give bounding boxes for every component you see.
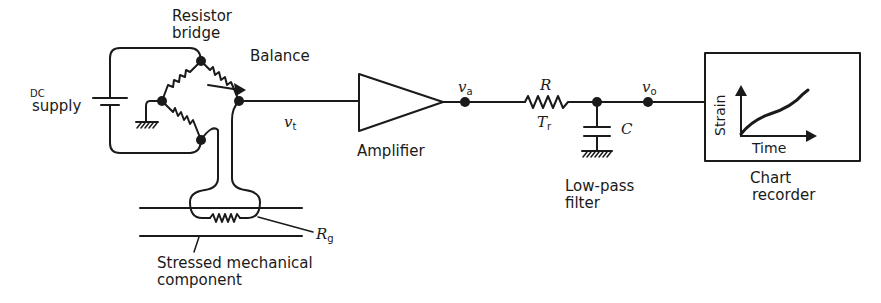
chart-recorder-label-line2: recorder: [752, 187, 815, 203]
chart-recorder-label-line1: Chart: [750, 170, 791, 186]
strain-gauge: [140, 178, 313, 252]
resistor-bridge-label-line1: Resistor: [172, 8, 232, 24]
chart-x-axis-label: Time: [752, 140, 786, 156]
bridge-output-voltage-label: vt: [284, 114, 296, 135]
time-constant-label: Tr: [537, 114, 551, 135]
amplifier-symbol: [359, 74, 525, 131]
mechanical-component-label-line2: component: [157, 272, 242, 288]
circuit-drawing: [0, 0, 881, 303]
low-pass-filter-symbol: [525, 96, 705, 157]
balance-label: Balance: [250, 48, 310, 64]
chart-y-axis-label: Strain: [712, 95, 728, 136]
mechanical-component-label-line1: Stressed mechanical: [157, 255, 313, 271]
filter-output-voltage-label: vo: [642, 79, 657, 100]
strain-gauge-resistance-label: Rg: [316, 226, 334, 247]
filter-resistor-label: R: [540, 77, 551, 93]
strain-gauge-circuit-diagram: DC supply Resistor bridge Balance vt Amp…: [0, 0, 881, 303]
amplifier-output-voltage-label: va: [458, 79, 473, 100]
filter-capacitor-label: C: [621, 121, 632, 137]
low-pass-filter-label-line1: Low-pass: [565, 178, 634, 194]
battery-symbol: [93, 48, 201, 153]
dc-supply-label-line2: supply: [32, 98, 81, 114]
low-pass-filter-label-line2: filter: [565, 195, 600, 211]
resistor-bridge: [136, 56, 246, 178]
resistor-bridge-label-line2: bridge: [172, 25, 220, 41]
amplifier-label: Amplifier: [357, 143, 425, 159]
